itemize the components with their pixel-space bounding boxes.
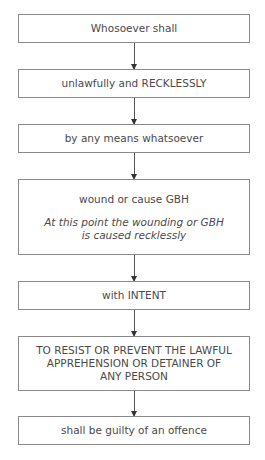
step-by-any-means: by any means whatsoever: [18, 124, 250, 153]
step-label: unlawfully and RECKLESSLY: [62, 77, 207, 90]
arrow-down-icon: [134, 310, 135, 336]
arrow-down-icon: [134, 255, 135, 281]
step-label: with INTENT: [102, 289, 166, 302]
step-whosoever-shall: Whosoever shall: [18, 14, 250, 43]
step-label: Whosoever shall: [91, 22, 178, 35]
step-label: by any means whatsoever: [65, 132, 204, 145]
arrow-down-icon: [134, 153, 135, 179]
step-label: shall be guilty of an offence: [61, 424, 207, 437]
step-unlawfully-recklessly: unlawfully and RECKLESSLY: [18, 69, 250, 98]
step-with-intent: with INTENT: [18, 281, 250, 310]
step-note: At this point the wounding or GBH is cau…: [39, 216, 229, 242]
step-label: TO RESIST OR PREVENT THE LAWFUL APPREHEN…: [35, 344, 233, 383]
step-resist-or-prevent: TO RESIST OR PREVENT THE LAWFUL APPREHEN…: [18, 336, 250, 391]
step-guilty-of-offence: shall be guilty of an offence: [18, 416, 250, 445]
arrow-down-icon: [134, 43, 135, 69]
arrow-down-icon: [134, 98, 135, 124]
step-wound-or-cause-gbh: wound or cause GBH At this point the wou…: [18, 179, 250, 255]
step-label: wound or cause GBH: [79, 193, 189, 206]
arrow-down-icon: [134, 391, 135, 416]
